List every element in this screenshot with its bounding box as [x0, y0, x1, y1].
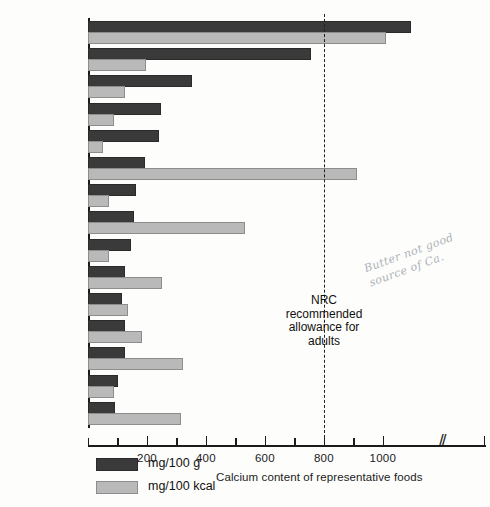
- bar-mg-per-100kcal: [88, 222, 245, 234]
- x-tick-label-600: 600: [255, 452, 275, 464]
- bar-mg-per-100kcal: [88, 331, 142, 343]
- nrc-line-3: allowance for: [264, 321, 384, 335]
- bar-mg-per-100kcal: [88, 358, 183, 370]
- nrc-annotation-label: NRC recommended allowance for adults: [264, 294, 384, 348]
- x-tick-label-1000: 1000: [370, 452, 396, 464]
- bar-row: [88, 130, 486, 157]
- x-tick-axis-end: [484, 436, 485, 447]
- bar-row: [88, 211, 486, 238]
- nrc-line-4: adults: [264, 335, 384, 349]
- x-tick-label-800: 800: [314, 452, 334, 464]
- bar-mg-per-100kcal: [88, 413, 181, 425]
- calcium-content-bar-chart: 2004006008001000 // Fish flourCheddar ch…: [0, 0, 490, 507]
- legend-label-mg-per-100kcal: mg/100 kcal: [148, 479, 215, 493]
- bar-mg-per-100kcal: [88, 195, 109, 207]
- bar-mg-per-100kcal: [88, 250, 109, 262]
- nrc-line-1: NRC: [264, 294, 384, 308]
- legend-label-mg-per-100g: mg/100 g: [148, 456, 200, 470]
- x-tick-900: [353, 438, 354, 447]
- x-tick-200: [147, 436, 148, 447]
- x-tick-1000: [383, 436, 384, 447]
- legend-swatch-light-icon: [96, 481, 138, 494]
- x-axis-title: Calcium content of representative foods: [216, 471, 423, 483]
- bar-row: [88, 21, 486, 48]
- nrc-reference-line: [324, 14, 325, 438]
- bar-mg-per-100kcal: [88, 141, 103, 153]
- bar-mg-per-100kcal: [88, 277, 162, 289]
- bar-row: [88, 48, 486, 75]
- bar-mg-per-100kcal: [88, 59, 146, 71]
- x-tick-300: [176, 438, 177, 447]
- bar-row: [88, 347, 486, 374]
- bar-row: [88, 402, 486, 429]
- bar-row: [88, 157, 486, 184]
- nrc-line-2: recommended: [264, 308, 384, 322]
- bar-row: [88, 184, 486, 211]
- bar-row: [88, 75, 486, 102]
- bar-mg-per-100kcal: [88, 32, 386, 44]
- x-tick-700: [294, 438, 295, 447]
- x-tick-600: [265, 436, 266, 447]
- bar-mg-per-100kcal: [88, 86, 125, 98]
- x-tick-500: [235, 438, 236, 447]
- x-tick-0: [88, 438, 89, 447]
- bar-row: [88, 375, 486, 402]
- x-tick-400: [206, 436, 207, 447]
- bar-mg-per-100kcal: [88, 168, 357, 180]
- bar-mg-per-100kcal: [88, 114, 114, 126]
- x-tick-100: [117, 438, 118, 447]
- axis-break-icon: //: [439, 432, 444, 449]
- plot-area: 2004006008001000 // Fish flourCheddar ch…: [88, 18, 486, 428]
- legend-swatch-dark-icon: [96, 458, 138, 471]
- bar-mg-per-100kcal: [88, 386, 114, 398]
- bar-row: [88, 103, 486, 130]
- bar-mg-per-100kcal: [88, 304, 128, 316]
